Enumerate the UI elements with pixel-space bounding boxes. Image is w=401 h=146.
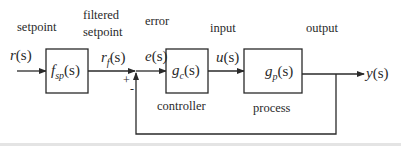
junction-plus-sign: + bbox=[123, 74, 130, 86]
block-diagram: setpoint filtered setpoint error input o… bbox=[0, 0, 401, 146]
block-gc-label: gc(s) bbox=[172, 63, 200, 81]
label-output: output bbox=[306, 22, 338, 35]
label-filtered-setpoint: setpoint bbox=[83, 26, 123, 39]
label-filtered: filtered bbox=[83, 9, 119, 22]
bottom-divider bbox=[0, 143, 401, 146]
signal-rf: rf(s) bbox=[101, 50, 125, 68]
junction-minus-sign: - bbox=[130, 83, 134, 95]
label-input: input bbox=[210, 22, 236, 35]
label-setpoint: setpoint bbox=[17, 21, 57, 34]
block-gp-label: gp(s) bbox=[265, 64, 293, 82]
label-process: process bbox=[253, 102, 291, 115]
signal-y: y(s) bbox=[366, 66, 389, 81]
signal-r: r(s) bbox=[10, 48, 32, 63]
label-controller: controller bbox=[157, 100, 206, 113]
signal-u: u(s) bbox=[216, 50, 239, 65]
label-error: error bbox=[145, 15, 169, 28]
block-fsp-label: fsp(s) bbox=[51, 63, 80, 81]
signal-e: e(s) bbox=[145, 49, 168, 64]
